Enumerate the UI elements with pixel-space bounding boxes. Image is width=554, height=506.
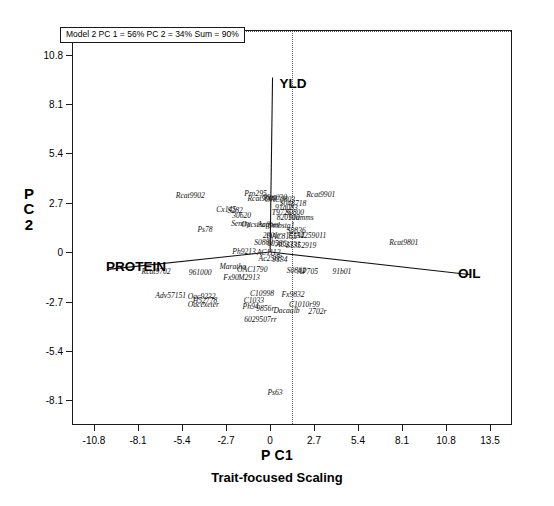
y-tick-mark — [66, 302, 72, 303]
genotype-label: Rcat9801 — [389, 239, 418, 247]
genotype-label: A4259011 — [296, 232, 327, 240]
x-tick-mark — [402, 425, 403, 431]
genotype-label: 9134 — [272, 256, 287, 264]
y-tick-label: 5.4 — [49, 148, 63, 159]
x-tick-label: -2.7 — [217, 435, 234, 446]
model-annotation-text: Model 2 PC 1 = 56% PC 2 = 34% Sum = 90% — [66, 29, 239, 39]
y-axis-title-line-3: 2 — [18, 217, 40, 232]
x-tick-label: -8.1 — [129, 435, 146, 446]
x-tick-label: 2.7 — [307, 435, 321, 446]
y-tick-mark — [66, 203, 72, 204]
x-tick-label: -10.8 — [83, 435, 106, 446]
genotype-label: 961000 — [189, 270, 212, 278]
x-tick-label: 0 — [267, 435, 273, 446]
x-tick-mark — [358, 425, 359, 431]
x-tick-mark — [446, 425, 447, 431]
genotype-label: 6029507rr — [244, 316, 277, 324]
y-tick-mark — [66, 252, 72, 253]
x-tick-mark — [226, 425, 227, 431]
genotype-label: Fx90 — [223, 274, 239, 282]
trait-label-protein: PROTEIN — [106, 259, 166, 274]
y-tick-label: 8.1 — [49, 99, 63, 110]
biplot-figure: Model 2 PC 1 = 56% PC 2 = 34% Sum = 90% … — [0, 0, 554, 506]
x-tick-label: 10.8 — [436, 435, 455, 446]
x-axis-title: P C1 — [0, 447, 554, 463]
trait-label-oil: OIL — [458, 266, 481, 281]
genotype-label: Ps63 — [267, 389, 282, 397]
x-tick-mark — [138, 425, 139, 431]
genotype-label: 91b01 — [332, 269, 351, 277]
genotype-label: Ph9213 — [232, 248, 256, 256]
genotype-label: 2702r — [308, 308, 326, 316]
genotype-label: Fx9832 — [281, 291, 304, 299]
genotype-label: Rcat9902 — [176, 192, 205, 200]
x-tick-label: -5.4 — [173, 435, 190, 446]
model-annotation-box: Model 2 PC 1 = 56% PC 2 = 34% Sum = 90% — [60, 27, 245, 43]
y-tick-label: 0 — [57, 247, 63, 258]
x-tick-mark — [182, 425, 183, 431]
y-tick-label: -2.7 — [46, 296, 63, 307]
y-tick-label: 2.7 — [49, 197, 63, 208]
x-tick-label: 5.4 — [351, 435, 365, 446]
y-axis-title-line-1: P — [18, 186, 40, 201]
y-tick-label: -5.4 — [46, 345, 63, 356]
y-tick-mark — [66, 55, 72, 56]
y-tick-mark — [66, 400, 72, 401]
y-axis-title: P C 2 — [18, 186, 40, 232]
x-tick-mark — [270, 425, 271, 431]
genotype-label: AP705 — [297, 269, 318, 277]
trait-label-yld: YLD — [279, 76, 306, 91]
y-axis-title-line-2: C — [18, 201, 40, 216]
x-tick-label: 8.1 — [395, 435, 409, 446]
y-tick-label: -8.1 — [46, 395, 63, 406]
genotype-label: M2913 — [238, 274, 260, 282]
x-tick-mark — [490, 425, 491, 431]
genotype-label: Rcat9901 — [306, 191, 335, 199]
y-tick-mark — [66, 351, 72, 352]
x-tick-label: 13.5 — [480, 435, 499, 446]
chart-subtitle: Trait-focused Scaling — [0, 470, 554, 485]
y-tick-mark — [66, 104, 72, 105]
x-tick-mark — [314, 425, 315, 431]
y-tick-label: 10.8 — [44, 49, 63, 60]
genotype-label: Oacexeter — [188, 302, 219, 310]
genotype-label: S1352919 — [286, 242, 316, 250]
y-tick-mark — [66, 153, 72, 154]
genotype-label: Ps78 — [197, 227, 212, 235]
x-tick-mark — [94, 425, 95, 431]
plot-area: Rcat9902Pro295Rcat9901Rcat990399rt030OAC… — [72, 30, 512, 425]
genotype-label: Adv57151 — [155, 292, 186, 300]
genotype-label: 9856r — [256, 305, 274, 313]
